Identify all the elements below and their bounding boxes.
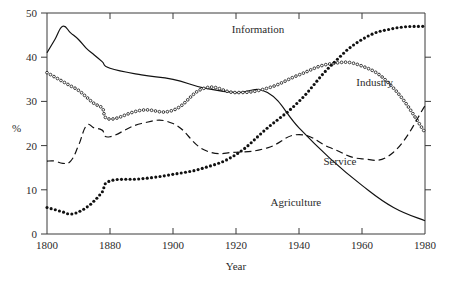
data-marker (86, 97, 89, 100)
line-chart-canvas: 1800188019001920194019601980 01020304050… (0, 0, 450, 284)
data-marker (49, 73, 52, 76)
data-marker (154, 176, 157, 179)
data-marker (234, 91, 237, 94)
data-marker (102, 108, 105, 111)
data-marker (262, 130, 265, 133)
data-marker (295, 102, 298, 105)
data-marker (53, 75, 56, 78)
data-marker (374, 31, 377, 34)
data-marker (295, 75, 298, 78)
data-marker (242, 91, 245, 94)
data-marker (371, 33, 374, 36)
data-marker (195, 91, 198, 94)
data-marker (209, 164, 212, 167)
data-marker (206, 86, 209, 89)
data-marker (321, 64, 324, 67)
data-marker (70, 213, 73, 216)
data-marker (131, 111, 134, 114)
data-marker (318, 76, 321, 79)
series-annotations: AgricultureIndustryServiceInformation (232, 23, 394, 208)
data-marker (292, 105, 295, 108)
x-tick-label: 1880 (99, 239, 122, 251)
series-label-agriculture: Agriculture (271, 196, 322, 208)
data-marker (412, 112, 415, 115)
data-marker (356, 63, 359, 66)
data-marker (387, 28, 390, 31)
data-marker (229, 156, 232, 159)
data-marker (56, 77, 59, 80)
data-marker (349, 46, 352, 49)
data-marker (240, 149, 243, 152)
data-marker (54, 208, 57, 211)
data-marker (409, 109, 412, 112)
data-marker (102, 186, 105, 189)
data-marker (397, 93, 400, 96)
data-marker (400, 26, 403, 29)
data-marker (104, 116, 107, 119)
data-marker (83, 94, 86, 97)
data-marker (226, 90, 229, 93)
data-marker (302, 72, 305, 75)
data-marker (243, 147, 246, 150)
data-marker (70, 85, 73, 88)
data-marker (339, 55, 342, 58)
data-marker (95, 197, 98, 200)
data-marker (333, 61, 336, 64)
data-marker (45, 206, 48, 209)
data-marker (272, 121, 275, 124)
data-marker (67, 83, 70, 86)
data-marker (363, 37, 366, 40)
data-marker (313, 67, 316, 70)
data-marker (280, 82, 283, 85)
data-marker (360, 64, 363, 67)
data-marker (180, 104, 183, 107)
data-marker (111, 179, 114, 182)
data-marker (167, 174, 170, 177)
data-marker (340, 61, 343, 64)
y-axis-tick-labels: 01020304050 (26, 7, 38, 240)
data-marker (171, 173, 174, 176)
data-marker (276, 119, 279, 122)
data-marker (250, 141, 253, 144)
data-marker (138, 109, 141, 112)
data-marker (273, 85, 276, 88)
data-marker (287, 78, 290, 81)
data-marker (324, 70, 327, 73)
data-marker (217, 162, 220, 165)
data-marker (166, 110, 169, 113)
data-marker (313, 83, 316, 86)
x-tick-label: 1960 (351, 239, 374, 251)
data-marker (60, 79, 63, 82)
data-marker (284, 80, 287, 83)
y-axis-title: % (12, 122, 21, 134)
data-marker (253, 90, 256, 93)
data-marker (192, 93, 195, 96)
data-marker (321, 73, 324, 76)
data-marker (345, 49, 348, 52)
data-marker (201, 167, 204, 170)
data-marker (306, 70, 309, 73)
data-marker (107, 180, 110, 183)
data-marker (162, 111, 165, 114)
data-marker (63, 81, 66, 84)
x-tick-label: 1800 (36, 239, 59, 251)
data-marker (352, 62, 355, 65)
data-marker (66, 212, 69, 215)
data-marker (414, 116, 417, 119)
data-marker (309, 69, 312, 72)
series-information (45, 25, 424, 216)
data-marker (395, 26, 398, 29)
data-marker (133, 178, 136, 181)
data-marker (291, 76, 294, 79)
series-label-service: Service (324, 155, 357, 167)
x-tick-label: 1920 (225, 239, 248, 251)
data-marker (123, 114, 126, 117)
data-marker (222, 89, 225, 92)
data-marker (92, 200, 95, 203)
data-marker (58, 209, 61, 212)
data-marker (158, 175, 161, 178)
data-marker (96, 104, 99, 107)
data-marker (307, 90, 310, 93)
data-marker (391, 27, 394, 30)
data-marker (184, 171, 187, 174)
